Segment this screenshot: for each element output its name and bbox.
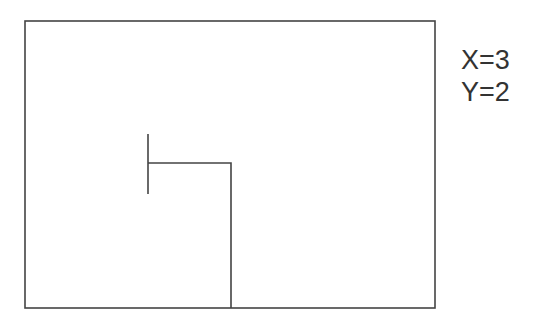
x-coordinate-label: X=3 [461,44,510,76]
frame-rectangle [25,21,435,308]
y-coordinate-label: Y=2 [461,76,510,108]
route-path [148,163,231,308]
coordinates-readout: X=3 Y=2 [461,44,510,108]
